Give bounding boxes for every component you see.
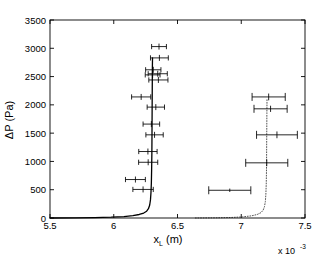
y-tick-label: 0 bbox=[41, 213, 46, 224]
x-tick-label: 7 bbox=[239, 220, 244, 231]
x-tick-label: 6.5 bbox=[171, 220, 184, 231]
y-tick-label: 500 bbox=[30, 184, 46, 195]
y-tick-label: 1000 bbox=[25, 156, 46, 167]
y-tick-label: 2000 bbox=[25, 99, 46, 110]
y-tick-label: 1500 bbox=[25, 128, 46, 139]
x-tick-label: 6 bbox=[111, 220, 116, 231]
x-tick-label: 7.5 bbox=[298, 220, 311, 231]
y-tick-label: 3000 bbox=[25, 43, 46, 54]
y-tick-label: 3500 bbox=[25, 15, 46, 26]
figure-container: 5.566.577.50500100015002000250030003500 … bbox=[0, 0, 331, 264]
y-tick-label: 2500 bbox=[25, 71, 46, 82]
x-axis-multiplier: x 10 bbox=[278, 246, 295, 256]
chart-canvas: 5.566.577.50500100015002000250030003500 … bbox=[0, 0, 331, 264]
x-axis-label: xL (m) bbox=[154, 233, 183, 247]
x-axis-multiplier-exponent: -3 bbox=[300, 243, 306, 250]
x-label-unit: (m) bbox=[163, 233, 183, 245]
y-axis-label: ΔP (Pa) bbox=[3, 101, 15, 139]
